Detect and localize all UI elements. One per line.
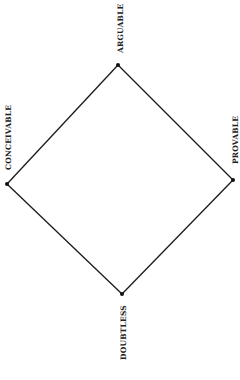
diamond-edges <box>7 65 233 294</box>
edge-doubtless-conceivable <box>7 184 122 294</box>
diamond-diagram: ARGUABLE PROVABLE DOUBTLESS CONCEIVABLE <box>0 0 240 380</box>
edge-conceivable-arguable <box>7 65 118 184</box>
diamond-vertices <box>5 63 235 296</box>
vertex-arguable <box>116 63 120 67</box>
vertex-conceivable <box>5 182 9 186</box>
label-provable: PROVABLE <box>231 116 240 164</box>
edge-provable-doubtless <box>122 180 233 294</box>
vertex-doubtless <box>120 292 124 296</box>
edge-arguable-provable <box>118 65 233 180</box>
label-arguable: ARGUABLE <box>116 3 125 54</box>
vertex-provable <box>231 178 235 182</box>
vertex-labels: ARGUABLE PROVABLE DOUBTLESS CONCEIVABLE <box>4 3 240 360</box>
label-conceivable: CONCEIVABLE <box>4 105 13 170</box>
label-doubtless: DOUBTLESS <box>119 305 128 360</box>
